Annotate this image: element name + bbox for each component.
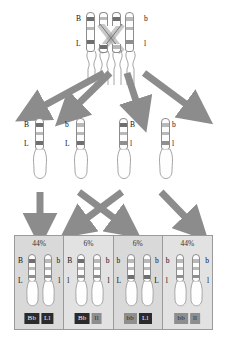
percent-label-2: 6% xyxy=(64,239,112,248)
gamete-4-label-bottom: l xyxy=(172,140,174,148)
band-b xyxy=(162,123,169,127)
arrow-to-gamete-4 xyxy=(140,70,204,118)
band xyxy=(128,275,134,279)
band xyxy=(78,275,84,278)
cell3-genotype-2: Ll xyxy=(139,313,152,324)
band-l4 xyxy=(126,40,133,44)
cell3-left-bottom: L xyxy=(117,277,122,285)
band-L xyxy=(77,141,84,145)
gamete-2-body xyxy=(76,118,85,150)
band-B1 xyxy=(87,17,94,21)
gamete-1-label-top: B xyxy=(24,121,29,129)
offspring-panel: 44% B L b l Bb Ll xyxy=(14,235,213,330)
gamete-2-label-top: b xyxy=(65,121,69,129)
cell1-right-bottom: l xyxy=(58,277,60,285)
tetrad-chromatid-1 xyxy=(86,12,95,52)
band xyxy=(193,267,199,270)
gamete-4-body xyxy=(161,118,170,150)
cell1-genotype-group: Bb Ll xyxy=(25,313,54,324)
band-b4 xyxy=(126,17,133,21)
cell4-genotype-2: ll xyxy=(190,313,200,324)
class-recombinant-Bbll[interactable]: 6% B l b l Bb ll xyxy=(64,236,113,329)
band-l xyxy=(162,141,169,145)
cell2-right-bottom: l xyxy=(107,277,109,285)
cell4-right-top: b xyxy=(205,257,209,265)
cell2-right-top: b xyxy=(106,257,110,265)
band xyxy=(78,267,84,270)
gamete-1-tail xyxy=(31,149,49,187)
cell4-left-top: b xyxy=(166,257,170,265)
gamete-3-label-top: B xyxy=(130,121,135,129)
gamete-3-label-bottom: l xyxy=(130,140,132,148)
arrow-gamete3-to-class2 xyxy=(76,190,132,234)
band xyxy=(45,275,51,278)
gamete-2-tail xyxy=(72,149,90,187)
band xyxy=(177,259,183,263)
arrow-gamete1-to-class1 xyxy=(32,190,52,234)
band xyxy=(94,259,100,263)
cell4-genotype-group: bb ll xyxy=(175,313,201,324)
gamete-1-body xyxy=(35,118,44,150)
cell1-left-bottom: L xyxy=(18,277,23,285)
band xyxy=(144,275,150,279)
percent-label-4: 44% xyxy=(163,239,212,248)
band-B2 xyxy=(100,17,107,20)
band xyxy=(193,259,199,263)
tetrad-chromatid-4 xyxy=(125,12,134,52)
tetrad-label-b: b xyxy=(144,15,148,23)
band-mid xyxy=(77,132,84,135)
cell2-genotype-group: Bb ll xyxy=(75,313,102,324)
percent-label-3: 6% xyxy=(114,239,162,248)
band-B xyxy=(120,123,127,127)
band-l xyxy=(120,141,127,145)
band xyxy=(94,267,100,270)
gamete-4-label-top: b xyxy=(172,121,176,129)
gamete-2-label-bottom: L xyxy=(65,140,70,148)
cell1-genotype-1: Bb xyxy=(25,313,40,324)
tetrad-label-B: B xyxy=(76,15,81,23)
cell2-chromosome-left xyxy=(77,254,85,282)
cell2-left-bottom: l xyxy=(67,277,69,285)
cell3-genotype-group: bb Ll xyxy=(124,313,152,324)
band-L2 xyxy=(100,45,107,49)
cell2-left-top: B xyxy=(67,257,72,265)
cell4-chromosome-right xyxy=(192,254,200,282)
cell2-tail-right xyxy=(90,281,106,313)
cell3-genotype-1: bb xyxy=(124,313,137,324)
cell3-right-top: b xyxy=(155,257,159,265)
band-mid xyxy=(120,132,127,135)
gamete-1-label-bottom: L xyxy=(24,140,29,148)
cell3-left-top: b xyxy=(117,257,121,265)
tetrad-label-L: L xyxy=(76,40,81,48)
cell1-tail-left xyxy=(25,281,41,313)
band xyxy=(45,259,51,263)
cell2-tail-left xyxy=(74,281,90,313)
cell3-tail-right xyxy=(140,281,156,313)
cell3-chromosome-right xyxy=(143,254,151,282)
band xyxy=(29,259,35,263)
band-L1 xyxy=(87,40,94,44)
cell3-tail-left xyxy=(124,281,140,313)
gamete-3-body xyxy=(119,118,128,150)
class-parental-bbll[interactable]: 44% b l b l bb ll xyxy=(163,236,212,329)
band-mid xyxy=(162,132,169,135)
band xyxy=(128,259,134,263)
class-parental-BbLl[interactable]: 44% B L b l Bb Ll xyxy=(15,236,64,329)
band-mid1 xyxy=(87,27,94,30)
band xyxy=(94,275,100,278)
cell4-tail-right xyxy=(189,281,205,313)
arrow-to-gamete-2 xyxy=(60,70,116,118)
band xyxy=(45,267,51,270)
band-B xyxy=(36,123,43,127)
class-recombinant-bbLl[interactable]: 6% b L b L bb Ll xyxy=(114,236,163,329)
gamete-4-tail xyxy=(157,149,175,187)
band xyxy=(177,267,183,270)
band xyxy=(177,275,183,278)
cell1-chromosome-left xyxy=(28,254,36,282)
band-mid4 xyxy=(126,27,133,30)
band-b xyxy=(77,123,84,127)
band xyxy=(128,267,134,270)
cell4-chromosome-left xyxy=(176,254,184,282)
band xyxy=(78,259,84,263)
band-l3 xyxy=(113,45,120,49)
